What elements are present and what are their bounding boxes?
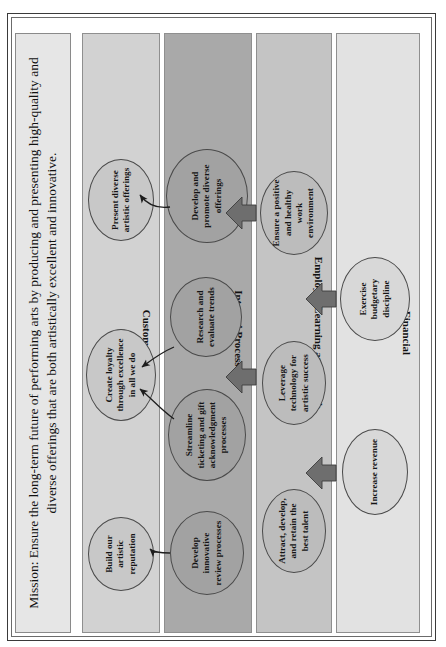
- objective-ensure-positive-healthy-work-environment[interactable]: Ensure a positive and healthy work envir…: [260, 171, 328, 255]
- objective-label: Develop and promote diverse offerings: [190, 157, 224, 235]
- objective-label: Attract, develop, and retain the best ta…: [277, 497, 311, 565]
- objective-increase-revenue[interactable]: Increase revenue: [342, 429, 408, 515]
- objective-develop-innovative-review-processes[interactable]: Develop innovative review processes: [170, 511, 244, 595]
- objective-leverage-technology-for-artistic-success[interactable]: Leverage technology for artistic success: [262, 341, 326, 425]
- objective-streamline-ticketing-and-gift[interactable]: Streamline ticketing and gift acknowledg…: [168, 389, 246, 481]
- objective-label: Build our artistic reputation: [104, 525, 138, 583]
- objective-present-diverse-artistic-offerings[interactable]: Present diverse artistic offerings: [88, 159, 154, 241]
- objective-research-and-evaluate-trends[interactable]: Research and evaluate trends: [170, 277, 242, 357]
- objective-label: Develop innovative review processes: [190, 519, 224, 587]
- objective-label: Streamline ticketing and gift acknowledg…: [184, 397, 230, 473]
- objective-build-our-artistic-reputation[interactable]: Build our artistic reputation: [88, 517, 154, 591]
- objective-label: Research and evaluate trends: [195, 285, 218, 349]
- mission-statement: Mission: Ensure the long-term future of …: [25, 50, 61, 616]
- objective-label: Leverage technology for artistic success: [277, 349, 311, 417]
- objective-label: Present diverse artistic offerings: [110, 167, 133, 233]
- objective-label: Increase revenue: [369, 439, 380, 505]
- strategy-map-canvas: Mission: Ensure the long-term future of …: [0, 0, 446, 647]
- mission-banner: Mission: Ensure the long-term future of …: [15, 33, 71, 633]
- objective-attract-develop-retain-best-talent[interactable]: Attract, develop, and retain the best ta…: [262, 489, 326, 573]
- objective-develop-and-promote-diverse-offerings[interactable]: Develop and promote diverse offerings: [166, 149, 248, 243]
- objective-create-loyalty-through-excellence[interactable]: Create loyalty through excellence in all…: [86, 329, 156, 421]
- objective-label: Create loyalty through excellence in all…: [104, 337, 138, 413]
- objective-exercise-budgetary-discipline[interactable]: Exercise budgetary discipline: [340, 257, 410, 341]
- objective-label: Exercise budgetary discipline: [358, 265, 392, 333]
- band-label-financial: Financial: [400, 34, 413, 632]
- objective-label: Ensure a positive and healthy work envir…: [271, 179, 317, 247]
